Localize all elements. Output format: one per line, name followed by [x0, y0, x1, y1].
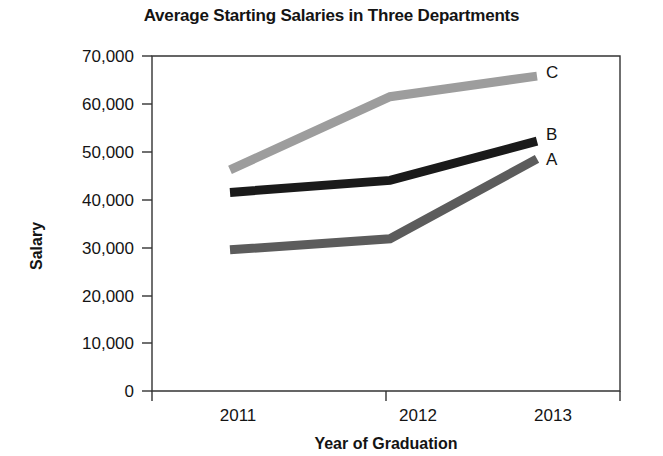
y-axis-title: Salary — [28, 222, 45, 270]
y-tick-label-60000: 60,000 — [82, 95, 134, 114]
y-tick-label-0: 0 — [125, 382, 134, 401]
series-line-a — [230, 159, 537, 250]
y-tick-label-40000: 40,000 — [82, 191, 134, 210]
plot-frame — [152, 56, 620, 391]
y-tick-label-70000: 70,000 — [82, 47, 134, 66]
series-label-c: C — [546, 63, 558, 82]
y-tick-label-20000: 20,000 — [82, 287, 134, 306]
y-tick-label-10000: 10,000 — [82, 334, 134, 353]
y-tick-label-50000: 50,000 — [82, 143, 134, 162]
series-label-a: A — [546, 150, 558, 169]
series-label-b: B — [546, 125, 557, 144]
x-axis-title: Year of Graduation — [314, 435, 457, 452]
chart-container: Average Starting Salaries in Three Depar… — [0, 0, 663, 456]
y-tick-label-30000: 30,000 — [82, 239, 134, 258]
x-tick-label-2013: 2013 — [534, 406, 572, 425]
line-chart-plot: 70,000 60,000 50,000 40,000 30,000 20,00… — [0, 0, 663, 456]
x-tick-label-2011: 2011 — [220, 406, 257, 425]
x-tick-label-2012: 2012 — [399, 406, 437, 425]
